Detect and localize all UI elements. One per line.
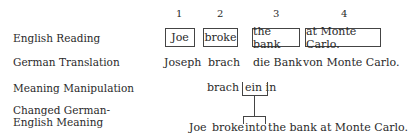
changed-subject: Joe <box>189 122 207 133</box>
german-word-1: Joseph <box>164 57 201 68</box>
column-number-4: 4 <box>341 9 347 19</box>
bracket-top-line <box>243 116 266 117</box>
column-number-2: 2 <box>217 9 223 19</box>
column-number-3: 3 <box>273 9 279 19</box>
bracket-right-line <box>267 82 268 96</box>
manipulation-verb: brach <box>207 82 239 93</box>
english-word: broke <box>204 31 236 44</box>
english-word: at Monte Carlo. <box>306 25 380 51</box>
english-word-box-2: broke <box>203 28 238 47</box>
changed-verb: broke <box>212 122 244 133</box>
changed-inserted-word: into <box>245 122 267 133</box>
german-word-3: die Bank <box>253 57 302 68</box>
english-word-box-4: at Monte Carlo. <box>305 28 381 47</box>
manipulation-particle: ein in <box>245 82 276 93</box>
label-meaning-manipulation: Meaning Manipulation <box>13 83 134 94</box>
label-german-translation: German Translation <box>13 57 120 68</box>
bracket-left-line <box>242 82 243 96</box>
label-changed-meaning-1: Changed German- <box>13 105 110 116</box>
german-word-4: von Monte Carlo. <box>303 57 400 68</box>
german-word-2: brach <box>208 57 240 68</box>
bracket-bottom-line <box>242 95 268 96</box>
label-changed-meaning-2: English Meaning <box>13 117 103 128</box>
english-word: the bank <box>253 25 299 51</box>
column-number-1: 1 <box>176 9 182 19</box>
english-word-box-1: Joe <box>165 28 195 47</box>
changed-rest: the bank at Monte Carlo. <box>268 122 408 133</box>
english-word: Joe <box>171 31 189 44</box>
english-word-box-3: the bank <box>252 28 300 47</box>
label-english-reading: English Reading <box>13 33 100 44</box>
connector-line <box>254 95 255 117</box>
